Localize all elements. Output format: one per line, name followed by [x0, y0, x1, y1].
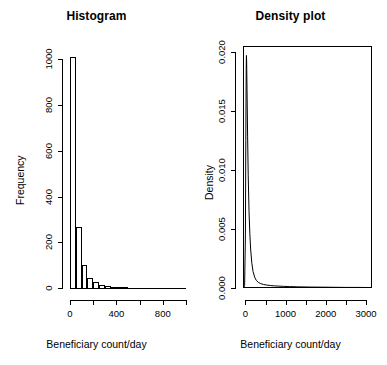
histogram-x-tick-label: 0	[67, 308, 72, 319]
histogram-y-tick-label: 200	[43, 234, 54, 250]
histogram-y-tick-label: 1000	[43, 49, 54, 70]
histogram-panel: Histogram Frequency Beneficiary count/da…	[0, 0, 193, 365]
histogram-title: Histogram	[0, 9, 193, 23]
histogram-y-tick	[58, 59, 63, 60]
density-panel: Density plot Density Beneficiary count/d…	[194, 0, 387, 365]
histogram-x-tick	[163, 300, 164, 305]
histogram-x-tick-label: 400	[108, 308, 124, 319]
histogram-x-tick	[70, 300, 71, 305]
histogram-y-axis-line	[62, 59, 63, 288]
histogram-bar	[180, 288, 186, 289]
histogram-y-tick	[58, 151, 63, 152]
histogram-y-tick-label: 0	[43, 285, 54, 290]
density-curve-path	[244, 55, 370, 287]
histogram-plot-area	[70, 48, 186, 288]
histogram-y-tick	[58, 105, 63, 106]
histogram-y-tick-label: 400	[43, 189, 54, 205]
histogram-x-tick	[116, 300, 117, 305]
histogram-x-tick	[186, 300, 187, 305]
histogram-x-tick-label: 800	[155, 308, 171, 319]
histogram-x-tick	[140, 300, 141, 305]
histogram-x-tick	[93, 300, 94, 305]
histogram-x-axis-title: Beneficiary count/day	[0, 338, 193, 350]
histogram-y-tick-label: 800	[43, 97, 54, 113]
histogram-x-axis-line	[70, 300, 186, 301]
histogram-bar	[157, 288, 163, 289]
histogram-y-axis-title: Frequency	[14, 155, 26, 205]
figure-canvas: Histogram Frequency Beneficiary count/da…	[0, 0, 387, 365]
histogram-y-tick	[58, 197, 63, 198]
histogram-y-tick	[58, 288, 63, 289]
histogram-y-tick	[58, 242, 63, 243]
density-curve	[194, 0, 387, 365]
histogram-y-tick-label: 600	[43, 143, 54, 159]
